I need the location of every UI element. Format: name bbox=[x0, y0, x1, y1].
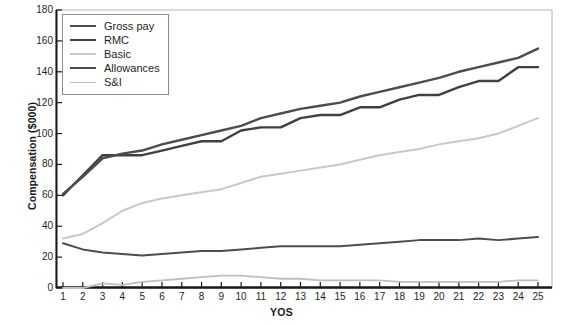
chart-legend: Gross payRMCBasicAllowancesS&I bbox=[62, 14, 169, 95]
x-tick-label-24: 24 bbox=[507, 292, 529, 302]
series-line-allowances bbox=[63, 237, 538, 256]
y-tick-label-120: 120 bbox=[27, 98, 53, 108]
y-tick-label-180: 180 bbox=[27, 5, 53, 15]
x-tick-label-12: 12 bbox=[270, 292, 292, 302]
x-tick-label-7: 7 bbox=[171, 292, 193, 302]
x-tick-label-2: 2 bbox=[72, 292, 94, 302]
legend-item-basic[interactable]: Basic bbox=[70, 47, 160, 61]
x-tick-label-20: 20 bbox=[428, 292, 450, 302]
x-tick-label-10: 10 bbox=[230, 292, 252, 302]
x-tick-label-9: 9 bbox=[210, 292, 232, 302]
y-tick-label-100: 100 bbox=[27, 129, 53, 139]
legend-swatch-icon bbox=[70, 39, 96, 41]
x-tick-label-23: 23 bbox=[487, 292, 509, 302]
x-tick-label-3: 3 bbox=[92, 292, 114, 302]
legend-swatch-icon bbox=[70, 82, 96, 83]
y-tick-label-60: 60 bbox=[27, 190, 53, 200]
y-tick-label-140: 140 bbox=[27, 67, 53, 77]
x-tick-label-1: 1 bbox=[52, 292, 74, 302]
legend-item-gross-pay[interactable]: Gross pay bbox=[70, 19, 160, 33]
x-tick-label-18: 18 bbox=[388, 292, 410, 302]
x-tick-label-11: 11 bbox=[250, 292, 272, 302]
x-tick-label-6: 6 bbox=[151, 292, 173, 302]
y-axis-tick-labels: 020406080100120140160180 bbox=[0, 0, 53, 326]
y-tick-label-160: 160 bbox=[27, 36, 53, 46]
x-tick-label-8: 8 bbox=[191, 292, 213, 302]
legend-item-s-i[interactable]: S&I bbox=[70, 75, 160, 89]
legend-label: RMC bbox=[104, 35, 129, 46]
compensation-line-chart: Compensation ($000) 02040608010012014016… bbox=[0, 0, 563, 326]
legend-swatch-icon bbox=[70, 25, 96, 27]
legend-label: Allowances bbox=[104, 63, 160, 74]
legend-label: Gross pay bbox=[104, 21, 154, 32]
x-tick-label-5: 5 bbox=[131, 292, 153, 302]
x-tick-label-19: 19 bbox=[408, 292, 430, 302]
legend-label: Basic bbox=[104, 49, 131, 60]
x-tick-label-14: 14 bbox=[309, 292, 331, 302]
x-tick-label-16: 16 bbox=[349, 292, 371, 302]
x-tick-label-13: 13 bbox=[290, 292, 312, 302]
legend-item-allowances[interactable]: Allowances bbox=[70, 61, 160, 75]
y-tick-label-20: 20 bbox=[27, 252, 53, 262]
x-tick-label-15: 15 bbox=[329, 292, 351, 302]
x-tick-label-4: 4 bbox=[111, 292, 133, 302]
legend-swatch-icon bbox=[70, 67, 96, 69]
legend-swatch-icon bbox=[70, 53, 96, 55]
x-tick-label-25: 25 bbox=[527, 292, 549, 302]
legend-item-rmc[interactable]: RMC bbox=[70, 33, 160, 47]
x-axis-title: YOS bbox=[0, 306, 563, 318]
series-line-basic bbox=[63, 118, 538, 238]
legend-label: S&I bbox=[104, 77, 122, 88]
x-tick-label-17: 17 bbox=[369, 292, 391, 302]
x-tick-label-22: 22 bbox=[468, 292, 490, 302]
x-tick-label-21: 21 bbox=[448, 292, 470, 302]
y-tick-label-80: 80 bbox=[27, 159, 53, 169]
y-tick-label-40: 40 bbox=[27, 221, 53, 231]
